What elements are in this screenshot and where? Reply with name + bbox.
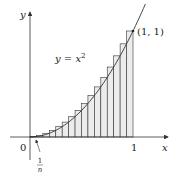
- rectangle: [120, 44, 126, 137]
- y-axis-label: y: [19, 9, 26, 20]
- x-end-label: 1: [131, 142, 137, 153]
- rectangle: [107, 67, 113, 137]
- riemann-sum-diagram: y x 0 1 (1, 1) y = x2 1 n: [0, 0, 181, 183]
- rectangle: [127, 31, 133, 137]
- point-label: (1, 1): [137, 26, 164, 37]
- rectangle: [101, 77, 107, 137]
- width-fraction-denominator: n: [38, 166, 43, 174]
- x-axis-label: x: [162, 142, 168, 153]
- rectangle: [114, 56, 120, 137]
- curve-equation: y = x2: [54, 52, 86, 64]
- rectangle: [75, 111, 81, 138]
- rectangle: [82, 103, 88, 137]
- upper-sum-rectangles: [30, 31, 133, 137]
- width-fraction-numerator: 1: [38, 157, 42, 165]
- point-marker: [132, 30, 135, 33]
- width-pointer-arrow: [36, 140, 40, 152]
- rectangle: [49, 130, 55, 137]
- origin-label: 0: [20, 142, 26, 153]
